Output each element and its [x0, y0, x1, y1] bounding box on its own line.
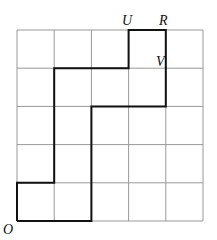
label-r: R: [158, 13, 168, 28]
diagram-canvas: O U R V: [0, 0, 217, 240]
label-u: U: [122, 13, 133, 28]
label-v: V: [156, 54, 166, 69]
grid-path-diagram: O U R V: [0, 0, 217, 240]
grid-lines: [17, 30, 203, 221]
label-o: O: [3, 222, 13, 237]
